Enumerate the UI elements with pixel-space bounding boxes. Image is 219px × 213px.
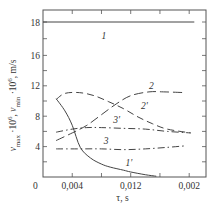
y-title-part: ·10 [8, 81, 18, 96]
series-line-3 [56, 146, 185, 150]
curve-label-3: 3 [103, 136, 109, 146]
y-tick-label: 16 [31, 51, 41, 61]
series-line-2-prime [56, 92, 190, 133]
plot-border [43, 10, 206, 177]
curve-label-2-prime: 2' [141, 101, 149, 111]
y-axis-title: vmax ·106, vmin ·106, m/s [6, 59, 22, 151]
origin-label: 0 [33, 181, 38, 191]
curve-label-3-prime: 3' [112, 115, 121, 125]
y-tick-label: 18 [31, 18, 41, 28]
y-tick-label: 8 [35, 112, 40, 122]
y-title-part: ·10 [8, 120, 18, 135]
y-title-part: , m/s [8, 59, 18, 78]
y-tick-label: 4 [35, 142, 40, 152]
series-group [43, 22, 194, 176]
y-tick-label: 12 [31, 81, 41, 91]
y-title-part: min [14, 96, 22, 107]
y-title-part: max [14, 135, 22, 148]
x-tick-label: 0,002 [179, 181, 201, 191]
chart: 0,0040,0120,002 48121618 11'22'3'3 0 τ, … [0, 0, 219, 213]
x-axis-title: τ, s [116, 193, 129, 203]
curve-labels: 11'22'3'3 [101, 31, 154, 169]
x-tick-label: 0,012 [120, 181, 142, 191]
series-line-2 [56, 92, 185, 141]
x-tick-label: 0,004 [62, 181, 84, 191]
curve-label-1: 1 [101, 31, 106, 41]
curve-label-2: 2 [149, 81, 154, 91]
curve-label-1-prime: 1' [126, 158, 134, 168]
plot-frame [43, 10, 206, 177]
